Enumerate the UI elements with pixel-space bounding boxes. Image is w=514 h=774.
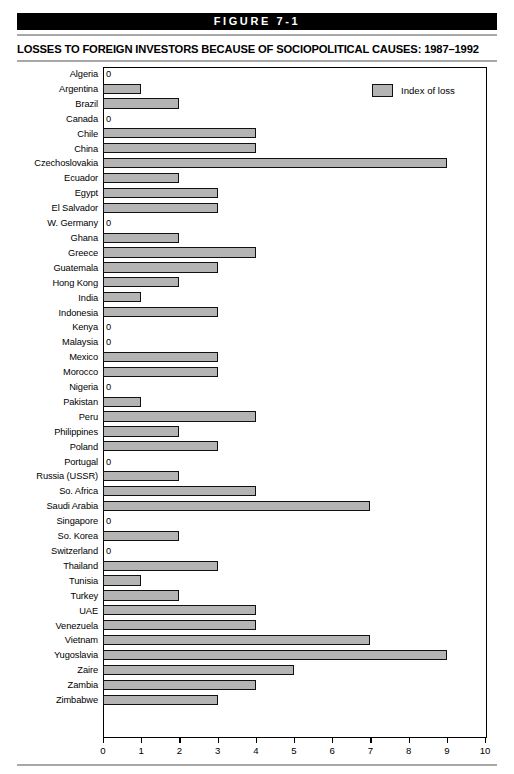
bar-track xyxy=(103,484,485,499)
bar xyxy=(103,203,218,213)
chart-legend: Index of loss xyxy=(372,84,455,97)
bar xyxy=(103,426,179,436)
x-tick xyxy=(294,737,295,743)
chart-row: China xyxy=(27,142,486,157)
bar-track xyxy=(103,499,485,514)
x-tick-label: 0 xyxy=(100,745,105,756)
bar xyxy=(103,98,179,108)
bar-track xyxy=(103,142,485,157)
zero-value-label: 0 xyxy=(106,514,111,529)
bar xyxy=(103,695,218,705)
bar-chart: Algeria0ArgentinaBrazilCanada0ChileChina… xyxy=(27,67,486,765)
category-label: Greece xyxy=(27,246,103,261)
figure-number-bar: FIGURE 7-1 xyxy=(17,13,497,30)
chart-row: Zimbabwe xyxy=(27,693,486,708)
x-tick xyxy=(179,737,180,743)
chart-row: Yugoslavia xyxy=(27,648,486,663)
chart-row: Tunisia xyxy=(27,574,486,589)
bar-track: 0 xyxy=(103,320,485,335)
x-tick-label: 2 xyxy=(177,745,182,756)
legend-label: Index of loss xyxy=(401,85,455,96)
zero-value-label: 0 xyxy=(106,112,111,127)
figure-title: LOSSES TO FOREIGN INVESTORS BECAUSE OF S… xyxy=(17,40,501,58)
bar xyxy=(103,531,179,541)
chart-row: Guatemala xyxy=(27,261,486,276)
chart-row: Vietnam xyxy=(27,633,486,648)
chart-row: Malaysia0 xyxy=(27,335,486,350)
category-label: Argentina xyxy=(27,82,103,97)
bar xyxy=(103,501,370,511)
category-label: Russia (USSR) xyxy=(27,469,103,484)
header-rule-bottom xyxy=(17,60,497,62)
chart-row: Saudi Arabia xyxy=(27,499,486,514)
category-label: Malaysia xyxy=(27,335,103,350)
category-label: Guatemala xyxy=(27,261,103,276)
category-label: Zambia xyxy=(27,678,103,693)
bar-track xyxy=(103,127,485,142)
x-tick xyxy=(218,737,219,743)
x-tick xyxy=(409,737,410,743)
x-tick-label: 10 xyxy=(480,745,491,756)
bar xyxy=(103,441,218,451)
bar-track xyxy=(103,619,485,634)
category-label: Chile xyxy=(27,127,103,142)
bar-track: 0 xyxy=(103,514,485,529)
zero-value-label: 0 xyxy=(106,380,111,395)
category-label: Tunisia xyxy=(27,574,103,589)
bar-track xyxy=(103,365,485,380)
category-label: India xyxy=(27,291,103,306)
x-tick xyxy=(256,737,257,743)
x-tick xyxy=(103,737,104,743)
bar-track xyxy=(103,663,485,678)
bar-track xyxy=(103,469,485,484)
x-tick-label: 5 xyxy=(291,745,296,756)
category-label: Poland xyxy=(27,440,103,455)
bar-track: 0 xyxy=(103,216,485,231)
category-label: Czechoslovakia xyxy=(27,156,103,171)
bar-track xyxy=(103,648,485,663)
category-label: Peru xyxy=(27,410,103,425)
chart-row: Zambia xyxy=(27,678,486,693)
chart-row: Philippines xyxy=(27,425,486,440)
bar-track xyxy=(103,604,485,619)
chart-row: Egypt xyxy=(27,186,486,201)
bar xyxy=(103,143,256,153)
category-label: Pakistan xyxy=(27,395,103,410)
category-label: El Salvador xyxy=(27,201,103,216)
category-label: Vietnam xyxy=(27,633,103,648)
bar-track: 0 xyxy=(103,455,485,470)
chart-row: Czechoslovakia xyxy=(27,156,486,171)
category-label: Ecuador xyxy=(27,171,103,186)
header-rule-top xyxy=(17,34,497,36)
chart-row: Switzerland0 xyxy=(27,544,486,559)
zero-value-label: 0 xyxy=(106,335,111,350)
category-label: So. Africa xyxy=(27,484,103,499)
bar xyxy=(103,561,218,571)
bar xyxy=(103,262,218,272)
bar-track xyxy=(103,186,485,201)
x-tick-label: 4 xyxy=(253,745,258,756)
category-label: Hong Kong xyxy=(27,276,103,291)
category-label: Yugoslavia xyxy=(27,648,103,663)
x-axis: 012345678910 xyxy=(103,737,487,765)
bar-track: 0 xyxy=(103,544,485,559)
category-label: Brazil xyxy=(27,97,103,112)
bar xyxy=(103,620,256,630)
bar xyxy=(103,233,179,243)
bar-track xyxy=(103,678,485,693)
zero-value-label: 0 xyxy=(106,216,111,231)
bar xyxy=(103,277,179,287)
bar-track xyxy=(103,156,485,171)
category-label: Kenya xyxy=(27,320,103,335)
bar xyxy=(103,680,256,690)
chart-row: Turkey xyxy=(27,589,486,604)
chart-row: Hong Kong xyxy=(27,276,486,291)
legend-swatch-icon xyxy=(372,84,393,97)
category-label: Mexico xyxy=(27,350,103,365)
bar-track xyxy=(103,291,485,306)
x-tick xyxy=(332,737,333,743)
category-label: Nigeria xyxy=(27,380,103,395)
category-label: So. Korea xyxy=(27,529,103,544)
bar xyxy=(103,590,179,600)
bar xyxy=(103,397,141,407)
